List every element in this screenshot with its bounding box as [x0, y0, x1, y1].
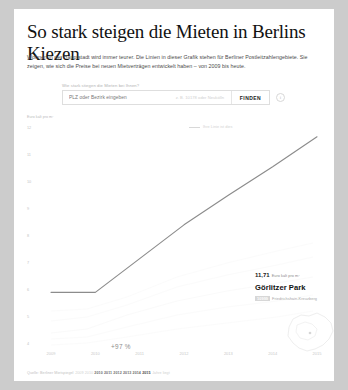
article-card: So stark steigen die Mieten in Berlins K… [14, 9, 334, 381]
footer-year-selected[interactable]: 2015 [142, 371, 150, 375]
footer-year-list: 20092010201020112012201320142015 Jahre l… [75, 371, 170, 375]
footer-year[interactable]: 2010 [85, 371, 93, 375]
footer-year[interactable]: 2013 [123, 371, 131, 375]
footer-year[interactable]: 2011 [104, 371, 112, 375]
tooltip-meta: 10999Friedrichshain-Kreuzberg [255, 296, 334, 301]
find-button[interactable]: FINDEN [231, 91, 269, 104]
chart-tooltip[interactable]: 11,71Euro kalt pro m² Görlitzer Park 109… [255, 263, 334, 301]
source-label: Quelle: Berliner Mietspiegel [27, 371, 74, 375]
berlin-mini-map [279, 307, 334, 359]
footer-year[interactable]: 2012 [113, 371, 121, 375]
rent-line-chart: Euro kalt pro m² Ihre Linie ist dies 121… [27, 115, 323, 367]
search-form[interactable]: z. B. 10178 oder Neukölln FINDEN [62, 90, 270, 105]
article-subtitle: Wohnen in der Hauptstadt wird immer teur… [27, 53, 321, 70]
footer-year[interactable]: 2010 [94, 371, 102, 375]
search-input[interactable] [63, 91, 168, 104]
map-marker [309, 332, 312, 335]
growth-annotation: +97 % [111, 343, 131, 350]
search-hint: z. B. 10178 oder Neukölln [168, 95, 231, 100]
footer-year[interactable]: 2014 [133, 371, 141, 375]
chart-source-footer: Quelle: Berliner Mietspiegel 20092010201… [27, 371, 323, 375]
info-icon[interactable]: i [276, 93, 285, 102]
footer-year[interactable]: 2009 [75, 371, 83, 375]
tooltip-area-name: Görlitzer Park [255, 283, 334, 292]
tooltip-value: 11,71 [255, 272, 270, 278]
tooltip-district: Friedrichshain-Kreuzberg [272, 296, 317, 301]
screenshot-page: So stark steigen die Mieten in Berlins K… [0, 0, 348, 390]
tooltip-postal-code: 10999 [255, 296, 270, 301]
tooltip-unit: Euro kalt pro m² [272, 274, 300, 278]
footer-tail: Jahre liegt [151, 371, 170, 375]
search-form-label: Wie stark stiegen die Mieten bei Ihnen? [62, 83, 139, 88]
